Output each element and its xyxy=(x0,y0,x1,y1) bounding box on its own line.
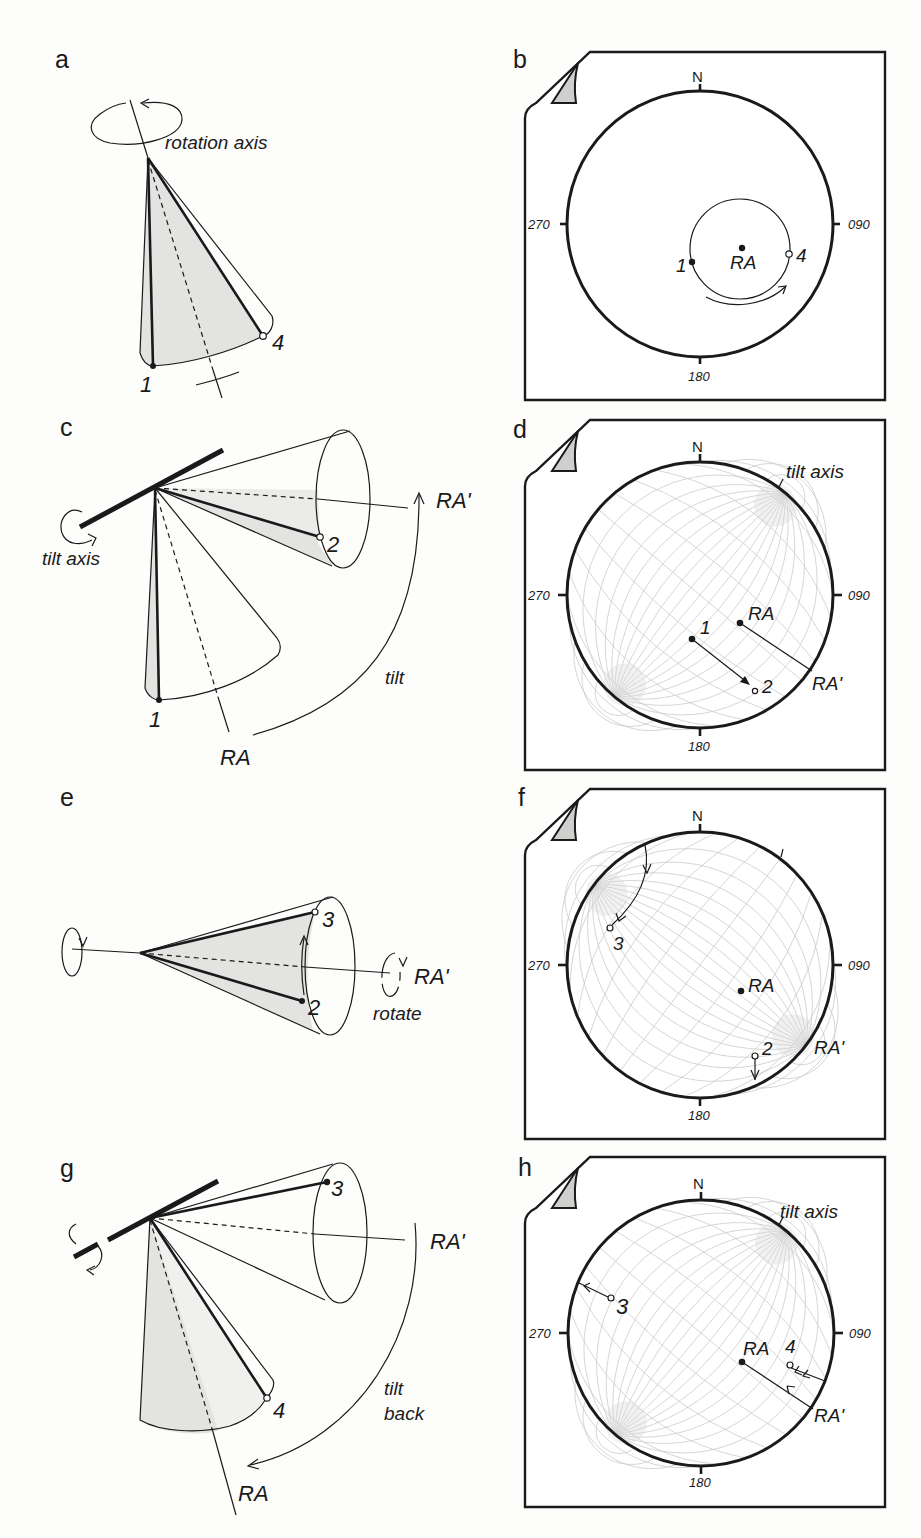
ra-prime-line xyxy=(315,1234,405,1240)
panel-c: c tilt axis 2 RA' 1 RA tilt xyxy=(42,413,472,770)
ra-prime-label: RA' xyxy=(814,1037,845,1058)
point-2-marker xyxy=(317,534,323,540)
panel-e: e 3 2 RA' rotate xyxy=(60,783,450,1035)
compass-south: 180 xyxy=(688,739,710,754)
compass-north: N xyxy=(692,807,703,824)
ra-prime-line xyxy=(318,499,408,508)
cone-shaded-face xyxy=(140,912,315,1030)
ra-marker xyxy=(737,620,744,627)
panel-d: d N 090 180 270 tilt axis RA RA' 1 2 xyxy=(497,389,902,800)
panel-letter-e: e xyxy=(60,783,74,811)
panel-b: b N 090 180 270 RA 1 4 xyxy=(513,45,885,400)
compass-south: 180 xyxy=(689,1475,711,1490)
rotation-axis-label: rotation axis xyxy=(165,132,268,153)
compass-south: 180 xyxy=(688,1108,710,1123)
point-1-label: 1 xyxy=(676,255,687,276)
compass-west: 270 xyxy=(528,1326,551,1341)
tilt-axis-label: tilt axis xyxy=(786,461,845,482)
point-3-label: 3 xyxy=(616,1294,629,1319)
original-cone-axis-dashed xyxy=(155,490,218,697)
ra-prime-line xyxy=(305,967,390,973)
compass-west: 270 xyxy=(527,958,550,973)
tilt-rotation-arrow-icon xyxy=(61,510,96,546)
tilt-axis-bar xyxy=(80,450,223,527)
point-2-marker xyxy=(299,998,305,1004)
point-4-marker xyxy=(264,1395,270,1401)
point-1-label: 1 xyxy=(700,617,711,638)
tilted-cone-axis-dashed xyxy=(150,1218,315,1234)
panel-letter-f: f xyxy=(518,783,525,811)
point-3-marker xyxy=(312,909,318,915)
compass-west: 270 xyxy=(527,588,550,603)
compass-east: 090 xyxy=(848,588,870,603)
left-rotation-arrow-icon xyxy=(62,928,87,976)
panel-letter-a: a xyxy=(55,45,69,73)
panel-a: a rotation axis 1 4 xyxy=(55,45,284,398)
point-1-marker xyxy=(150,363,156,369)
point-3-label: 3 xyxy=(322,907,335,932)
point-4-label: 4 xyxy=(273,1398,285,1423)
point-2-label: 2 xyxy=(761,676,773,697)
point-1-label: 1 xyxy=(140,372,152,397)
point-4-marker xyxy=(787,1362,793,1368)
compass-east: 090 xyxy=(848,217,870,232)
rotation-axis-line xyxy=(130,100,148,158)
point-2-marker xyxy=(752,1053,758,1059)
tilted-generatrix-3 xyxy=(150,1182,327,1218)
stereonet-frame xyxy=(525,52,885,400)
compass-north: N xyxy=(692,68,703,85)
point-2-label: 2 xyxy=(761,1038,773,1059)
point-2-label: 2 xyxy=(307,995,320,1020)
tilt-axis-label: tilt axis xyxy=(780,1201,839,1222)
ra-line xyxy=(213,1432,236,1515)
figure-canvas: a rotation axis 1 4 b N 090 180 xyxy=(0,0,921,1538)
compass-east: 090 xyxy=(848,958,870,973)
tilt-back-arc-arrow xyxy=(250,1223,416,1465)
ra-prime-label: RA' xyxy=(430,1229,466,1254)
ra-prime-label: RA' xyxy=(414,964,450,989)
panel-letter-c: c xyxy=(60,413,73,441)
rotate-label: rotate xyxy=(373,1003,422,1024)
point-4-label: 4 xyxy=(796,245,807,266)
point-4-marker xyxy=(260,333,267,340)
ra-label: RA xyxy=(748,975,774,996)
tilt-label: tilt xyxy=(385,667,405,688)
panel-f: f N 090 180 270 3 RA 2 RA' xyxy=(495,764,906,1165)
ra-label: RA xyxy=(220,745,251,770)
panel-letter-b: b xyxy=(513,45,527,73)
cone-axis-extension xyxy=(213,370,222,398)
tilt-axis-bar xyxy=(108,1181,218,1240)
compass-north: N xyxy=(692,438,703,455)
compass-north: N xyxy=(693,1175,704,1192)
ra-label: RA xyxy=(238,1481,269,1506)
panel-g: g 3 RA' 4 RA tilt back xyxy=(60,1154,466,1515)
tilted-cone-edge-top xyxy=(150,1164,333,1218)
point-1-marker xyxy=(689,636,696,643)
ra-label: RA xyxy=(743,1338,769,1359)
panel-letter-g: g xyxy=(60,1154,74,1182)
panel-letter-d: d xyxy=(513,415,527,443)
panel-letter-h: h xyxy=(518,1153,532,1181)
compass-west: 270 xyxy=(527,217,550,232)
ra-marker xyxy=(738,988,745,995)
tilt-axis-bar-end xyxy=(74,1244,98,1257)
ra-marker xyxy=(739,245,745,251)
ra-line xyxy=(218,697,229,732)
ra-prime-label: RA' xyxy=(436,488,472,513)
point-3-label: 3 xyxy=(613,933,624,954)
point-2-marker xyxy=(752,688,757,693)
ra-label: RA xyxy=(730,252,756,273)
ra-label: RA xyxy=(748,603,774,624)
point-4-label: 4 xyxy=(785,1336,796,1357)
point-3-marker xyxy=(324,1179,330,1185)
ra-prime-label: RA' xyxy=(814,1405,845,1426)
tilt-axis-label: tilt axis xyxy=(42,548,101,569)
tilt-back-label-line2: back xyxy=(384,1403,426,1424)
ra-prime-label: RA' xyxy=(812,673,843,694)
point-2-label: 2 xyxy=(326,532,339,557)
compass-south: 180 xyxy=(688,369,710,384)
ra-marker xyxy=(739,1359,746,1366)
point-4-label: 4 xyxy=(272,330,284,355)
point-1-label: 1 xyxy=(149,707,161,732)
point-1-marker xyxy=(156,697,162,703)
